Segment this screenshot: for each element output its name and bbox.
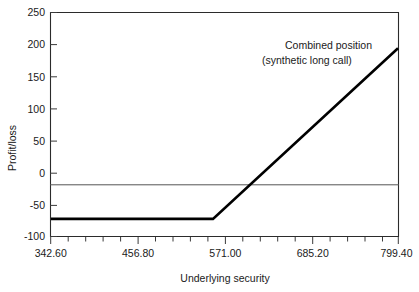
profit-loss-chart: 250 200 150 100 50 0 -50 -100 <box>0 0 419 292</box>
annotation-line-2: (synthetic long call) <box>262 54 352 66</box>
x-axis-title: Underlying security <box>180 272 270 284</box>
x-tick-label-1: 456.80 <box>122 247 154 259</box>
annotation-line-1: Combined position <box>285 39 372 51</box>
x-axis-tick-labels: 342.60 456.80 571.00 685.20 799.40 <box>35 247 413 259</box>
y-tick-label-3: 100 <box>27 103 45 115</box>
x-tick-label-0: 342.60 <box>35 247 67 259</box>
y-axis-tick-labels: 250 200 150 100 50 0 -50 -100 <box>24 6 45 242</box>
y-tick-label-5: 0 <box>39 167 45 179</box>
y-tick-label-6: -50 <box>30 199 45 211</box>
y-tick-label-7: -100 <box>24 230 45 242</box>
x-tick-label-3: 685.20 <box>297 247 329 259</box>
chart-canvas: 250 200 150 100 50 0 -50 -100 <box>0 0 419 292</box>
y-tick-label-2: 150 <box>27 71 45 83</box>
y-tick-label-4: 50 <box>33 135 45 147</box>
x-tick-label-4: 799.40 <box>380 247 412 259</box>
x-tick-label-2: 571.00 <box>209 247 241 259</box>
y-tick-label-0: 250 <box>27 6 45 18</box>
y-axis-title: Profit/loss <box>6 125 18 171</box>
y-tick-label-1: 200 <box>27 38 45 50</box>
